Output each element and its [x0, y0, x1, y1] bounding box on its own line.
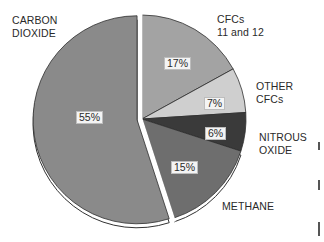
label-line: DIOXIDE: [12, 27, 58, 40]
label-line: OXIDE: [259, 144, 307, 157]
page-edge-mark: [318, 180, 320, 190]
label-line: CFCs: [256, 93, 293, 106]
page-edge-mark: [318, 222, 320, 236]
percent-other-cfcs: 7%: [204, 97, 225, 110]
label-cfcs-11-12: CFCs 11 and 12: [217, 13, 264, 39]
percent-methane: 15%: [171, 161, 198, 174]
label-line: METHANE: [222, 200, 274, 213]
label-line: OTHER: [256, 80, 293, 93]
percent-cfcs-11-12: 17%: [164, 57, 191, 70]
pie-slices: [33, 11, 246, 228]
label-line: NITROUS: [259, 131, 307, 144]
label-line: CARBON: [12, 14, 58, 27]
label-other-cfcs: OTHER CFCs: [256, 80, 293, 106]
percent-carbon-dioxide: 55%: [76, 111, 103, 124]
percent-nitrous-oxide: 6%: [205, 127, 226, 140]
label-line: CFCs: [217, 13, 264, 26]
label-line: 11 and 12: [217, 26, 264, 39]
label-nitrous-oxide: NITROUS OXIDE: [259, 131, 307, 157]
label-carbon-dioxide: CARBON DIOXIDE: [12, 14, 58, 40]
label-methane: METHANE: [222, 200, 274, 213]
page-edge-mark: [318, 142, 320, 150]
